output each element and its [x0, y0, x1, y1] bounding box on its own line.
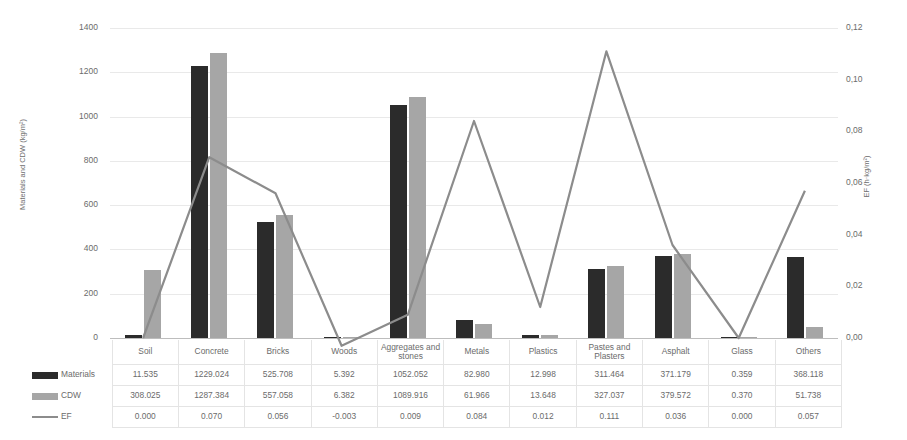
y-tick-label-left: 400 [58, 243, 98, 253]
table-cell: 0.000 [112, 407, 178, 428]
table-cell: 0.359 [709, 365, 775, 386]
axis-baseline [110, 338, 838, 339]
table-category-header: Asphalt [643, 340, 709, 365]
y-tick-label-left: 600 [58, 199, 98, 209]
legend-swatch-icon [32, 416, 58, 418]
table-cell: -0.003 [311, 407, 377, 428]
table-cell: 1052.052 [377, 365, 443, 386]
table-cell: 0.057 [775, 407, 841, 428]
y-tick-label-right: 0,04 [846, 229, 886, 239]
table-cell: 557.058 [245, 386, 311, 407]
table-category-header: Woods [311, 340, 377, 365]
table-cell: 0.009 [377, 407, 443, 428]
table-cell: 368.118 [775, 365, 841, 386]
legend-label: Materials [61, 370, 95, 380]
table-cell: 379.572 [643, 386, 709, 407]
legend-swatch-icon [32, 372, 58, 379]
plot-area: Materials and CDW (kg/m²) EF (h·kg/m²) 0… [0, 0, 907, 340]
y-tick-label-left: 1000 [58, 111, 98, 121]
table-cell: 13.648 [510, 386, 576, 407]
table-cell: 0.084 [444, 407, 510, 428]
y-tick-label-right: 0,00 [846, 332, 886, 342]
table-cell: 0.111 [576, 407, 642, 428]
legend-label: EF [61, 412, 72, 422]
table-cell: 0.012 [510, 407, 576, 428]
table-category-header: Concrete [178, 340, 244, 365]
table-cell: 525.708 [245, 365, 311, 386]
data-table: SoilConcreteBricksWoodsAggregates and st… [30, 340, 842, 428]
chart-screenshot: Materials and CDW (kg/m²) EF (h·kg/m²) 0… [0, 0, 907, 440]
y-tick-label-right: 0,06 [846, 177, 886, 187]
legend-entry-cdw: CDW [30, 386, 112, 407]
y-axis-title-left: Materials and CDW (kg/m²) [18, 105, 27, 225]
table-cell: 371.179 [643, 365, 709, 386]
table-cell: 61.966 [444, 386, 510, 407]
table-cell: 6.382 [311, 386, 377, 407]
table-cell: 11.535 [112, 365, 178, 386]
table-cell: 12.998 [510, 365, 576, 386]
y-tick-label-left: 200 [58, 288, 98, 298]
table-category-header: Aggregates and stones [377, 340, 443, 365]
legend-entry-ef: EF [30, 407, 112, 428]
table-cell: 0.056 [245, 407, 311, 428]
ef-polyline [143, 51, 805, 346]
table-row: CDW308.0251287.384557.0586.3821089.91661… [30, 386, 842, 407]
y-tick-label-right: 0,02 [846, 280, 886, 290]
legend-label: CDW [61, 391, 81, 401]
ef-line-series [110, 0, 838, 338]
y-tick-label-right: 0,08 [846, 125, 886, 135]
table-corner-cell [30, 340, 112, 365]
table-row: Materials11.5351229.024525.7085.3921052.… [30, 365, 842, 386]
y-tick-label-left: 800 [58, 155, 98, 165]
table-cell: 0.036 [643, 407, 709, 428]
table-cell: 0.000 [709, 407, 775, 428]
table-cell: 327.037 [576, 386, 642, 407]
y-tick-label-right: 0,12 [846, 22, 886, 32]
table-category-header: Plastics [510, 340, 576, 365]
table-cell: 311.464 [576, 365, 642, 386]
table-cell: 0.070 [178, 407, 244, 428]
table-cell: 0.370 [709, 386, 775, 407]
legend-swatch-icon [32, 393, 58, 400]
table-cell: 1089.916 [377, 386, 443, 407]
table-category-header: Bricks [245, 340, 311, 365]
table-row: EF0.0000.0700.056-0.0030.0090.0840.0120.… [30, 407, 842, 428]
table-cell: 1229.024 [178, 365, 244, 386]
y-tick-label-left: 1200 [58, 66, 98, 76]
table-category-header: Metals [444, 340, 510, 365]
table-category-header: Soil [112, 340, 178, 365]
table-cell: 82.980 [444, 365, 510, 386]
legend-entry-materials: Materials [30, 365, 112, 386]
table-header-row: SoilConcreteBricksWoodsAggregates and st… [30, 340, 842, 365]
table-category-header: Others [775, 340, 841, 365]
table-category-header: Pastes and Plasters [576, 340, 642, 365]
table-cell: 51.738 [775, 386, 841, 407]
table-cell: 308.025 [112, 386, 178, 407]
table-category-header: Glass [709, 340, 775, 365]
table-cell: 5.392 [311, 365, 377, 386]
y-tick-label-right: 0,10 [846, 74, 886, 84]
table-cell: 1287.384 [178, 386, 244, 407]
y-tick-label-left: 1400 [58, 22, 98, 32]
